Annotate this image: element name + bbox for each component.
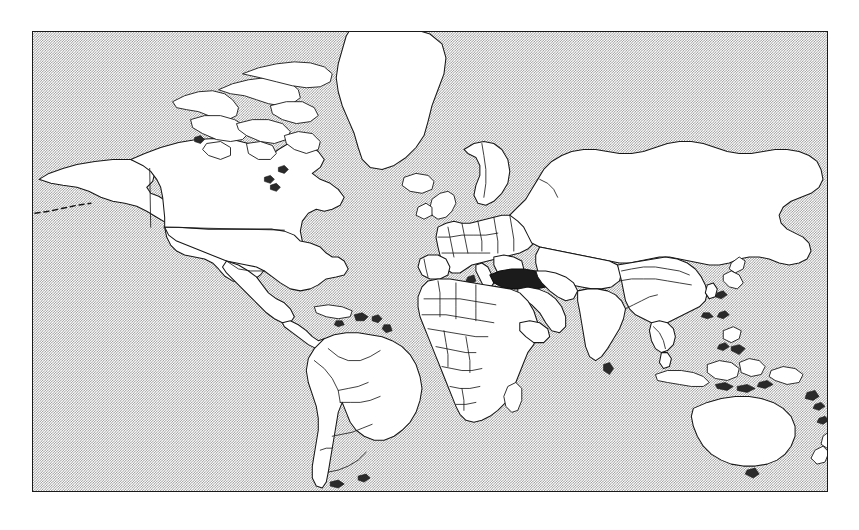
- new-zealand-north: [821, 430, 827, 448]
- iberian-peninsula: [418, 255, 450, 279]
- south-america: [306, 333, 422, 488]
- argentina-border: [328, 452, 366, 472]
- map-frame: [32, 31, 828, 492]
- lesser-antilles: [382, 325, 392, 333]
- sulawesi: [739, 359, 765, 377]
- vanuatu: [813, 402, 825, 410]
- lesser-sunda-a: [715, 382, 733, 390]
- hispaniola: [354, 313, 368, 321]
- luzon: [723, 327, 741, 343]
- fiji: [817, 416, 827, 424]
- great-britain: [430, 191, 456, 219]
- falkland-islands: [358, 474, 370, 482]
- borneo: [707, 361, 739, 381]
- ireland: [416, 203, 432, 219]
- puerto-rico: [372, 315, 382, 323]
- kyushu: [715, 291, 727, 299]
- figure-page: World map with highlighted country: [0, 0, 859, 530]
- malay-peninsula: [659, 353, 671, 369]
- australia: [691, 396, 795, 466]
- taiwan: [717, 311, 729, 319]
- cuba: [314, 305, 352, 319]
- russia: [510, 142, 823, 265]
- tierra-del-fuego: [330, 480, 344, 488]
- india: [578, 289, 626, 361]
- china: [618, 257, 708, 325]
- greenland: [336, 32, 446, 169]
- ryukyu-islands: [701, 313, 713, 319]
- arctic-island-f: [270, 102, 318, 124]
- land-north-america[interactable]: [35, 32, 446, 349]
- mindanao: [731, 345, 745, 355]
- land-south-america[interactable]: [306, 333, 422, 488]
- sumatra-java: [655, 371, 709, 387]
- land-asia[interactable]: [490, 142, 823, 393]
- indochina: [649, 321, 675, 353]
- solomon-islands: [805, 390, 819, 400]
- world-map[interactable]: [33, 32, 827, 491]
- aleutian-islands: [35, 203, 91, 213]
- new-guinea: [769, 367, 803, 385]
- lesser-sunda-c: [757, 380, 773, 388]
- lesser-sunda-b: [737, 384, 755, 392]
- visayas: [717, 343, 729, 351]
- new-zealand-south: [811, 446, 827, 464]
- arctic-island-e: [236, 120, 290, 144]
- jamaica: [334, 321, 344, 327]
- honshu: [723, 271, 743, 289]
- iceland: [402, 173, 434, 193]
- scandinavia: [464, 142, 510, 206]
- land-oceania[interactable]: [691, 390, 827, 478]
- tasmania: [745, 468, 759, 478]
- sri-lanka: [604, 363, 614, 375]
